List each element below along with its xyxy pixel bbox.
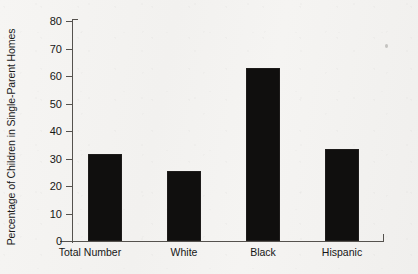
y-tick-label-50: 50: [22, 98, 62, 110]
y-tick-label-10: 10: [22, 208, 62, 220]
y-tick-label-60: 60: [22, 70, 62, 82]
y-tick-label-20: 20: [22, 180, 62, 192]
bar-white: [167, 171, 201, 241]
y-tick-label-30: 30: [22, 153, 62, 165]
y-axis-tick-labels: 80 70 60 50 40 30 20 10 0: [18, 0, 62, 274]
x-label-hispanic: Hispanic: [294, 246, 390, 258]
x-axis-line: [60, 241, 384, 242]
y-tick-label-80: 80: [22, 15, 62, 27]
plot-area: [72, 21, 384, 241]
bar-hispanic: [325, 149, 359, 241]
y-tick-0: [66, 241, 72, 242]
x-label-total-number: Total Number: [42, 246, 138, 258]
bars-layer: [72, 21, 384, 241]
scan-artifact-speck: [385, 44, 388, 48]
y-tick-label-40: 40: [22, 125, 62, 137]
y-tick-label-70: 70: [22, 43, 62, 55]
bar-total-number: [88, 154, 122, 241]
bar-chart-figure: Percentage of Children in Single-Parent …: [0, 0, 418, 274]
bar-black: [246, 68, 280, 241]
